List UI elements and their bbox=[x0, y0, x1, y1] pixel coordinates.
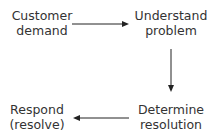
arrow-right-icon bbox=[72, 21, 129, 27]
arrow-down-icon bbox=[168, 49, 174, 92]
arrow-left-icon bbox=[73, 115, 129, 121]
diagram-arrows bbox=[0, 0, 211, 138]
